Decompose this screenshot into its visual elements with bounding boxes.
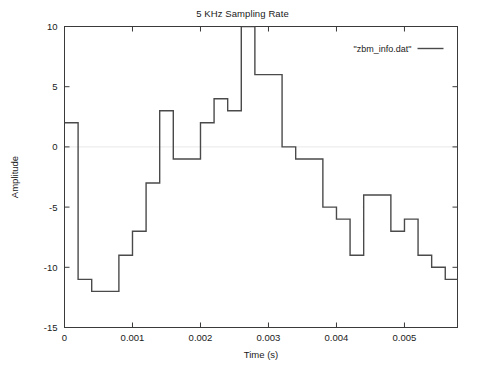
plot-frame <box>65 27 458 328</box>
x-tick-label: 0 <box>62 332 67 343</box>
x-tick-label: 0.005 <box>393 332 417 343</box>
y-tick-label: -5 <box>49 202 57 213</box>
y-tick-label: -10 <box>44 262 58 273</box>
y-tick-label: -15 <box>44 322 58 333</box>
data-series-line <box>65 27 459 304</box>
y-tick-label: 0 <box>52 141 57 152</box>
x-axis-title: Time (s) <box>244 349 278 360</box>
x-tick-label: 0.002 <box>189 332 213 343</box>
y-tick-label: 5 <box>52 81 57 92</box>
plot-area: 00.0010.0020.0030.0040.0051050-5-10-15Ti… <box>0 0 485 374</box>
chart-figure: 5 KHz Sampling Rate 00.0010.0020.0030.00… <box>0 0 485 374</box>
legend-entry-label: "zbm_info.dat" <box>354 44 412 54</box>
x-tick-label: 0.003 <box>257 332 281 343</box>
y-axis-title: Amplitude <box>9 156 20 198</box>
x-tick-label: 0.001 <box>121 332 145 343</box>
y-tick-label: 10 <box>47 21 58 32</box>
x-tick-label: 0.004 <box>325 332 349 343</box>
